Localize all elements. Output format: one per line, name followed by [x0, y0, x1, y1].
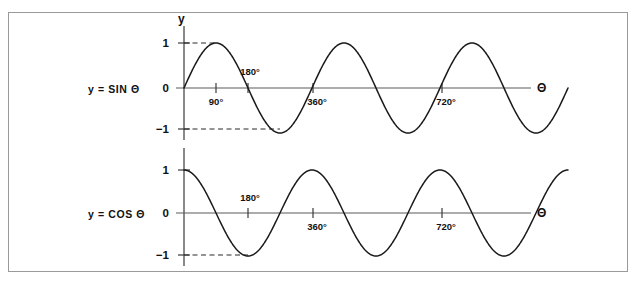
sine-series-label: y = SIN Θ: [88, 83, 140, 95]
sine-xlabel-180: 180°: [240, 66, 260, 77]
sine-y-axis-name: y: [178, 12, 185, 26]
cosine-xlabel-720: 720°: [436, 221, 456, 232]
cosine-chart: y = COS Θ Θ 1 0 −1 180° 360° 720°: [88, 148, 568, 266]
sine-ylabel-0: 0: [163, 82, 169, 94]
sine-xlabel-360: 360°: [307, 96, 327, 107]
cosine-ylabel-1: 1: [163, 164, 170, 176]
trig-graphs-figure: y = SIN Θ y Θ 1 0 −1 90° 180° 360° 720°: [0, 0, 642, 286]
sine-xlabel-720: 720°: [436, 96, 456, 107]
sine-chart: y = SIN Θ y Θ 1 0 −1 90° 180° 360° 720°: [88, 12, 568, 140]
sine-xlabel-90: 90°: [209, 96, 224, 107]
sine-x-axis-name: Θ: [537, 81, 546, 95]
sine-ylabel-1: 1: [163, 37, 170, 49]
cosine-series-label: y = COS Θ: [88, 208, 145, 220]
trig-plot-svg: y = SIN Θ y Θ 1 0 −1 90° 180° 360° 720°: [0, 0, 642, 286]
sine-ylabel-neg1: −1: [156, 123, 170, 135]
cosine-xlabel-360: 360°: [307, 221, 327, 232]
cosine-ylabel-0: 0: [163, 207, 169, 219]
cosine-xlabel-180: 180°: [240, 192, 260, 203]
cosine-ylabel-neg1: −1: [156, 249, 170, 261]
